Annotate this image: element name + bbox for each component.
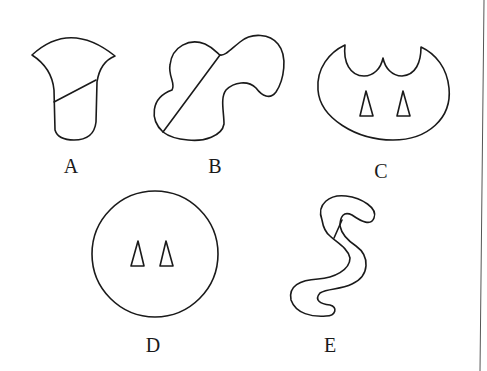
right-border-line (480, 0, 484, 371)
shape-b-divider (163, 55, 220, 132)
label-b: B (208, 155, 221, 177)
label-e: E (324, 334, 336, 356)
label-a: A (64, 155, 79, 177)
shape-c-triangle-right (397, 91, 410, 116)
label-d: D (146, 334, 160, 356)
shapes-figure: A B C D E (0, 0, 487, 371)
shape-a-divider (54, 80, 96, 102)
shape-e-outline (291, 196, 375, 316)
shape-d-outline (92, 191, 218, 317)
shape-a: A (32, 38, 115, 177)
shape-d-triangle-left (131, 241, 144, 266)
shape-d: D (92, 191, 218, 356)
shape-e: E (291, 196, 375, 356)
shape-a-outline (32, 38, 115, 140)
shape-b: B (154, 35, 284, 177)
shape-c-outline (318, 45, 449, 140)
label-c: C (374, 160, 387, 182)
shape-b-outline (154, 35, 284, 140)
shape-c-triangle-left (360, 91, 373, 116)
shape-c: C (318, 45, 449, 182)
shape-d-triangle-right (160, 241, 173, 266)
